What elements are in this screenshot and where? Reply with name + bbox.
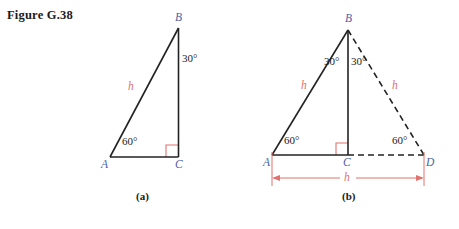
panel-caption-a: (a) (136, 190, 149, 202)
page-title: Figure G.38 (7, 8, 73, 23)
vertex-label-a-A: A (101, 158, 108, 170)
figure-canvas: Figure G.38 B A C 30° 60° h (a) B A C D … (0, 0, 459, 229)
side-label-a-h: h (128, 80, 134, 92)
angle-label-b-B-left: 30° (324, 55, 339, 67)
vertex-label-b-A: A (263, 156, 270, 168)
vertex-label-a-C: C (175, 158, 183, 170)
side-label-b-right-h: h (392, 79, 398, 91)
panel-caption-b: (b) (342, 190, 355, 202)
angle-label-a-A: 60° (122, 135, 137, 147)
arrowhead-left-icon (272, 175, 280, 181)
angle-label-b-D: 60° (392, 134, 407, 146)
segment-b-bd (348, 30, 424, 155)
side-label-b-left-h: h (301, 79, 307, 91)
geometry-drawing (0, 0, 459, 229)
vertex-label-b-D: D (426, 156, 434, 168)
angle-label-b-A: 60° (284, 134, 299, 146)
dimension-label-b-base-h: h (344, 171, 350, 183)
vertex-label-b-B: B (345, 12, 352, 24)
vertex-label-a-B: B (175, 11, 182, 23)
vertex-label-b-C: C (343, 156, 351, 168)
segment-a-ab (110, 28, 179, 157)
right-angle-marker-a (166, 145, 178, 157)
angle-label-b-B-right: 30° (351, 55, 366, 67)
arrowhead-right-icon (416, 175, 424, 181)
angle-label-a-B: 30° (182, 52, 197, 64)
right-angle-marker-b (336, 143, 348, 155)
